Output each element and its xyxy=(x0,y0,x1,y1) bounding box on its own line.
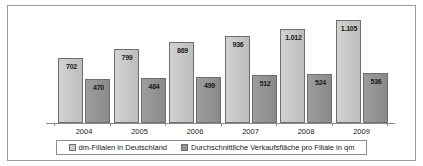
x-axis-tick xyxy=(221,123,222,126)
chart-legend: dm-Filialen in Deutschland Durchschnittl… xyxy=(56,140,367,155)
x-axis-tick xyxy=(110,123,111,126)
bar-value-label: 524 xyxy=(308,79,333,87)
legend-swatch-icon-series2 xyxy=(181,144,188,151)
bar-series1-2008[interactable]: 1.012 xyxy=(280,29,305,123)
bar-value-label: 1.105 xyxy=(337,25,362,33)
bar-series2-2007[interactable]: 512 xyxy=(252,75,277,123)
legend-label-series1: dm-Filialen in Deutschland xyxy=(79,143,167,152)
legend-swatch-icon-series1 xyxy=(69,144,76,151)
bar-value-label: 936 xyxy=(226,41,251,49)
bar-chart-figure: 7024707994848694999365121.0125241.105536… xyxy=(0,0,423,166)
x-axis-tick xyxy=(387,123,388,126)
x-axis-tick xyxy=(165,123,166,126)
bar-value-label: 470 xyxy=(86,84,111,92)
legend-label-series2: Durchschnittliche Verkaufsfläche pro Fil… xyxy=(191,143,354,152)
bar-value-label: 702 xyxy=(59,63,84,71)
bar-series1-2007[interactable]: 936 xyxy=(225,36,250,123)
bar-series2-2005[interactable]: 484 xyxy=(141,78,166,123)
bar-value-label: 799 xyxy=(115,54,140,62)
bar-series2-2009[interactable]: 536 xyxy=(363,73,388,123)
bar-value-label: 499 xyxy=(197,82,222,90)
bar-value-label: 512 xyxy=(253,80,278,88)
bar-series2-2004[interactable]: 470 xyxy=(85,79,110,123)
x-axis-label-2004: 2004 xyxy=(56,127,112,136)
x-axis-label-2008: 2008 xyxy=(278,127,334,136)
bar-series2-2008[interactable]: 524 xyxy=(307,74,332,123)
x-axis-label-2005: 2005 xyxy=(112,127,168,136)
bar-series1-2005[interactable]: 799 xyxy=(114,49,139,123)
bar-value-label: 484 xyxy=(142,83,167,91)
x-axis-label-2006: 2006 xyxy=(167,127,223,136)
bar-value-label: 536 xyxy=(364,78,389,86)
legend-entry-series2[interactable]: Durchschnittliche Verkaufsfläche pro Fil… xyxy=(181,143,354,152)
bar-series1-2009[interactable]: 1.105 xyxy=(336,20,361,123)
bar-series1-2004[interactable]: 702 xyxy=(58,58,83,123)
bar-value-label: 1.012 xyxy=(281,34,306,42)
bar-series1-2006[interactable]: 869 xyxy=(169,42,194,123)
x-axis-label-2009: 2009 xyxy=(334,127,390,136)
bar-series2-2006[interactable]: 499 xyxy=(196,77,221,123)
x-axis-label-2007: 2007 xyxy=(223,127,279,136)
bar-value-label: 869 xyxy=(170,47,195,55)
legend-entry-series1[interactable]: dm-Filialen in Deutschland xyxy=(69,143,167,152)
x-axis-tick xyxy=(276,123,277,126)
x-axis-tick xyxy=(54,123,55,126)
x-axis-tick xyxy=(332,123,333,126)
